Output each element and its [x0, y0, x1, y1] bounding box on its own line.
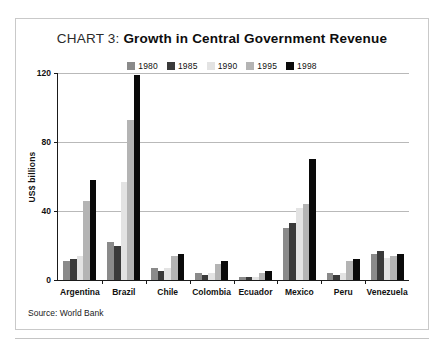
bar-argentina-1985	[70, 259, 77, 280]
bar-argentina-1990	[77, 256, 84, 280]
bar-mexico-1998	[309, 159, 316, 280]
x-tick-mark	[277, 280, 278, 284]
bar-mexico-1980	[283, 228, 290, 280]
bar-groups: ArgentinaBrazilChileColombiaEcuadorMexic…	[58, 73, 409, 280]
bar-peru-1995	[346, 261, 353, 280]
chart-title: CHART 3: Growth in Central Government Re…	[16, 31, 428, 46]
y-tick-label-80: 80	[42, 137, 51, 147]
bar-ecuador-1985	[246, 277, 253, 280]
bar-mexico-1985	[289, 223, 296, 280]
bar-peru-1998	[353, 259, 360, 280]
chart-title-prefix: CHART 3:	[57, 31, 120, 46]
footer-divider	[15, 338, 429, 339]
bar-chile-1990	[164, 268, 171, 280]
bar-chile-1985	[158, 271, 165, 280]
legend-label-1990: 1990	[218, 61, 238, 71]
legend-swatch-1985	[167, 62, 175, 70]
bar-chile-1995	[171, 256, 178, 280]
bar-colombia-1980	[195, 273, 202, 280]
plot-area: 04080120 ArgentinaBrazilChileColombiaEcu…	[57, 73, 409, 281]
bar-group-argentina: Argentina	[58, 73, 102, 280]
legend-item-1985: 1985	[167, 61, 198, 71]
chart-legend: 19801985199019951998	[16, 61, 428, 71]
y-axis-title: US$ billions	[25, 73, 39, 281]
bar-ecuador-1990	[252, 277, 259, 280]
legend-label-1998: 1998	[297, 61, 317, 71]
y-tick-label-120: 120	[37, 68, 51, 78]
bar-mexico-1995	[303, 204, 310, 280]
bar-ecuador-1998	[265, 271, 272, 280]
legend-item-1998: 1998	[286, 61, 317, 71]
bar-argentina-1980	[63, 261, 70, 280]
bar-brazil-1995	[127, 120, 134, 280]
bar-colombia-1998	[221, 261, 228, 280]
bar-peru-1985	[333, 275, 340, 280]
x-tick-mark	[321, 280, 322, 284]
x-axis-label-mexico: Mexico	[285, 287, 314, 297]
bar-venezuela-1995	[390, 256, 397, 280]
chart-title-main: Growth in Central Government Revenue	[123, 31, 387, 46]
y-tick-label-0: 0	[46, 275, 51, 285]
legend-swatch-1995	[246, 62, 254, 70]
bar-peru-1990	[340, 273, 347, 280]
legend-item-1990: 1990	[207, 61, 238, 71]
x-tick-mark	[234, 280, 235, 284]
legend-swatch-1980	[127, 62, 135, 70]
bar-colombia-1995	[215, 264, 222, 280]
bar-brazil-1998	[134, 75, 141, 280]
bar-ecuador-1995	[259, 273, 266, 280]
x-axis-label-brazil: Brazil	[112, 287, 135, 297]
legend-item-1980: 1980	[127, 61, 158, 71]
x-tick-mark	[146, 280, 147, 284]
x-tick-mark	[102, 280, 103, 284]
bar-group-venezuela: Venezuela	[365, 73, 409, 280]
bar-colombia-1985	[202, 275, 209, 280]
bar-chile-1998	[178, 254, 185, 280]
bar-group-chile: Chile	[146, 73, 190, 280]
x-axis-label-chile: Chile	[157, 287, 178, 297]
y-tick-mark-0	[54, 280, 58, 281]
chart-figure: CHART 3: Growth in Central Government Re…	[15, 18, 429, 330]
bar-brazil-1980	[107, 242, 114, 280]
legend-item-1995: 1995	[246, 61, 277, 71]
bar-group-ecuador: Ecuador	[234, 73, 278, 280]
bar-colombia-1990	[208, 273, 215, 280]
x-tick-mark	[365, 280, 366, 284]
bar-group-brazil: Brazil	[102, 73, 146, 280]
bar-venezuela-1990	[384, 258, 391, 280]
legend-swatch-1990	[207, 62, 215, 70]
y-axis-title-text: US$ billions	[27, 151, 37, 202]
bar-mexico-1990	[296, 208, 303, 280]
x-axis-label-colombia: Colombia	[192, 287, 231, 297]
bar-argentina-1998	[90, 180, 97, 280]
x-axis-label-peru: Peru	[334, 287, 353, 297]
bar-group-mexico: Mexico	[277, 73, 321, 280]
bar-venezuela-1998	[397, 254, 404, 280]
bar-peru-1980	[327, 273, 334, 280]
legend-label-1985: 1985	[178, 61, 198, 71]
bar-venezuela-1985	[377, 251, 384, 280]
x-axis-label-venezuela: Venezuela	[367, 287, 408, 297]
source-note: Source: World Bank	[28, 308, 103, 318]
y-tick-label-40: 40	[42, 206, 51, 216]
legend-label-1995: 1995	[257, 61, 277, 71]
x-tick-mark	[190, 280, 191, 284]
bar-venezuela-1980	[371, 254, 378, 280]
bar-group-colombia: Colombia	[190, 73, 234, 280]
x-axis-label-ecuador: Ecuador	[238, 287, 272, 297]
legend-label-1980: 1980	[138, 61, 158, 71]
bar-group-peru: Peru	[321, 73, 365, 280]
bar-chile-1980	[151, 268, 158, 280]
bar-argentina-1995	[83, 201, 90, 280]
plot-axes: 04080120 ArgentinaBrazilChileColombiaEcu…	[57, 73, 409, 281]
bar-brazil-1990	[121, 182, 128, 280]
x-axis-label-argentina: Argentina	[60, 287, 100, 297]
bar-ecuador-1980	[239, 277, 246, 280]
legend-swatch-1998	[286, 62, 294, 70]
bar-brazil-1985	[114, 246, 121, 280]
